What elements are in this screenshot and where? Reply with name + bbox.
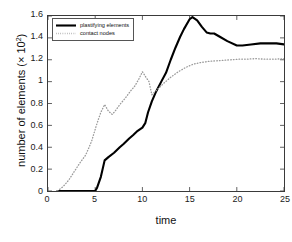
x-axis-tick-label: 20 <box>225 195 249 204</box>
y-axis-label-exponent: 2 <box>15 37 22 41</box>
legend-line-swatch <box>56 30 76 37</box>
plot-canvas <box>48 16 284 191</box>
series-line-contact-nodes <box>57 59 284 191</box>
x-axis-tick-label: 25 <box>273 195 292 204</box>
x-axis-tick-label: 10 <box>130 195 154 204</box>
x-axis-tick-label: 15 <box>178 195 202 204</box>
chart-figure: 00.20.40.60.811.21.41.6 0510152025 time … <box>0 0 292 242</box>
legend-line-swatch <box>56 22 76 29</box>
y-axis-label: number of elements (× 102) <box>15 10 28 190</box>
legend-item: plastifying elements <box>56 22 129 29</box>
x-axis-tick-label: 5 <box>83 195 107 204</box>
x-axis-label: time <box>47 214 285 226</box>
legend-label: contact nodes <box>80 30 115 37</box>
y-axis-label-prefix: number of elements (× 10 <box>15 41 27 167</box>
y-axis-label-suffix: ) <box>15 34 27 38</box>
legend-item: contact nodes <box>56 30 129 37</box>
x-axis-tick-label: 0 <box>35 195 59 204</box>
series-line-plastifying-elements <box>57 17 284 191</box>
legend-label: plastifying elements <box>80 22 129 29</box>
plot-area <box>47 15 285 192</box>
chart-legend: plastifying elementscontact nodes <box>52 18 134 41</box>
